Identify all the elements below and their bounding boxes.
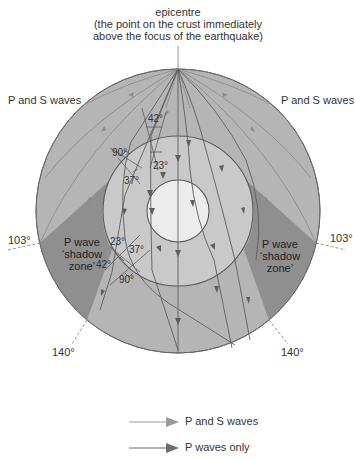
legend-arrow-p-icon xyxy=(128,442,180,454)
angle-marker-lines xyxy=(0,0,356,460)
legend-label-p: P waves only xyxy=(185,441,250,453)
legend: P and S waves P waves only xyxy=(128,414,328,458)
legend-label-ps: P and S waves xyxy=(185,415,258,427)
legend-item-ps: P and S waves xyxy=(128,414,328,432)
legend-arrow-ps-icon xyxy=(128,416,180,428)
legend-item-p: P waves only xyxy=(128,440,328,458)
